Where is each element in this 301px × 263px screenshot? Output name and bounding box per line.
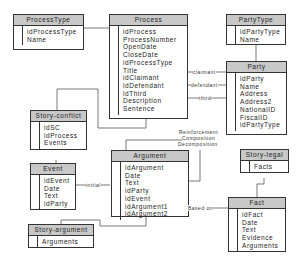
field: Arguments	[40, 238, 93, 246]
entity-title: Argument	[112, 151, 188, 162]
entity-title: Story-legal	[241, 150, 288, 161]
field: Sentence	[121, 105, 187, 113]
field: Address2	[238, 98, 286, 106]
entity-fact[interactable]: Fact idFact Date Text Evidence Arguments	[228, 197, 286, 252]
field: idThird	[121, 90, 187, 98]
field: Events	[42, 139, 86, 147]
field: idParty	[238, 75, 286, 83]
field: idProcessType	[121, 59, 187, 67]
entity-story-conflict[interactable]: Story-conflict idSC idProcess Events	[30, 110, 87, 150]
entity-title: PartyType	[227, 15, 285, 26]
field: idParty	[123, 187, 188, 195]
relation-label-decomposition: Decomposition	[178, 141, 218, 147]
field: Date	[123, 172, 188, 180]
field: Name	[238, 36, 285, 44]
field: idParty	[42, 200, 75, 208]
field: idProcess	[42, 132, 86, 140]
field: Name	[25, 36, 83, 44]
field: Name	[238, 83, 286, 91]
entity-party[interactable]: Party idParty Name Address Address2 Nati…	[226, 61, 287, 135]
field: idEvent	[123, 195, 188, 203]
field: Text	[42, 192, 75, 200]
field: CloseDate	[121, 51, 187, 59]
field: idArgument2	[123, 210, 188, 218]
field: idFact	[240, 211, 285, 219]
entity-title: Story-conflict	[31, 111, 86, 122]
field: idProcess	[121, 28, 187, 36]
relation-label-claimant: claimant	[193, 69, 216, 75]
field: idArgument	[123, 164, 188, 172]
field: idDefendant	[121, 82, 187, 90]
entity-title: Story-argument	[29, 225, 93, 236]
field: ProcessNumber	[121, 36, 187, 44]
entity-title: ProcessType	[14, 15, 83, 26]
relation-label-based-on: Based on	[188, 205, 213, 211]
field: Evidence	[240, 234, 285, 242]
entity-title: Event	[31, 164, 75, 175]
entity-story-legal[interactable]: Story-legal Facts	[240, 149, 289, 173]
field: Facts	[252, 163, 288, 171]
entity-title: Party	[227, 62, 286, 73]
field: idProcessType	[25, 28, 83, 36]
field: idClaimant	[121, 74, 187, 82]
field: Date	[42, 185, 75, 193]
field: Text	[240, 226, 285, 234]
field: NationalID	[238, 106, 286, 114]
field: idArgument1	[123, 203, 188, 211]
entity-story-argument[interactable]: Story-argument Arguments	[28, 224, 94, 248]
field: idEvent	[42, 177, 75, 185]
field: idSC	[42, 124, 86, 132]
field: OpenDate	[121, 43, 187, 51]
relation-label-third: third	[199, 95, 211, 101]
field: idPartyType	[238, 28, 285, 36]
relation-label-initial: initial	[86, 182, 101, 188]
entity-argument[interactable]: Argument idArgument Date Text idParty id…	[111, 150, 189, 217]
relation-label-defendant: defendant	[191, 82, 218, 88]
entity-process[interactable]: Process idProcess ProcessNumber OpenDate…	[109, 14, 188, 119]
field: FiscalID	[238, 114, 286, 122]
entity-title: Process	[110, 15, 187, 26]
entity-title: Fact	[229, 198, 285, 209]
field: Description	[121, 97, 187, 105]
field: Text	[123, 179, 188, 187]
field: Date	[240, 219, 285, 227]
er-diagram: ProcessType idProcessType Name Process i…	[0, 0, 301, 263]
field: Arguments	[240, 242, 285, 250]
field: Title	[121, 67, 187, 75]
field: idPartyType	[238, 121, 286, 129]
field: Address	[238, 90, 286, 98]
entity-processtype[interactable]: ProcessType idProcessType Name	[13, 14, 84, 50]
entity-partytype[interactable]: PartyType idPartyType Name	[226, 14, 286, 45]
entity-event[interactable]: Event idEvent Date Text idParty	[30, 163, 76, 210]
